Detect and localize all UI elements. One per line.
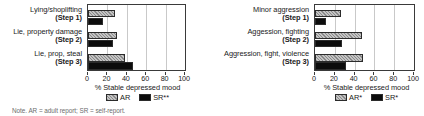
bar-sr xyxy=(315,18,326,26)
legend-label-sr: SR** xyxy=(153,93,169,102)
bar-sr xyxy=(315,40,342,48)
gridline xyxy=(127,5,128,70)
category-step: (Step 3) xyxy=(34,58,82,66)
category-label: Lie, prop, steal (Step 3) xyxy=(34,50,82,66)
bar-ar xyxy=(315,10,341,18)
category-step: (Step 2) xyxy=(247,36,309,44)
category-label: Aggession, fighting (Step 2) xyxy=(247,28,309,44)
bar-ar xyxy=(88,54,125,62)
bar-sr xyxy=(315,62,346,70)
plot-area xyxy=(87,4,186,71)
figure-note: Note. AR = adult report; SR = self-repor… xyxy=(12,107,125,116)
x-axis-title: % Stable depressed mood xyxy=(60,83,215,92)
bar-ar xyxy=(88,10,115,18)
category-step: (Step 2) xyxy=(13,36,82,44)
category-step: (Step 1) xyxy=(30,14,82,22)
category-label: Lie, property damage (Step 2) xyxy=(13,28,82,44)
gridline xyxy=(146,5,147,70)
legend: AR* SR* xyxy=(289,93,424,102)
gridline xyxy=(166,5,167,70)
plot-area xyxy=(314,4,415,71)
bar-sr xyxy=(88,18,103,26)
bar-ar xyxy=(315,32,362,40)
category-step: (Step 3) xyxy=(224,58,309,66)
legend-swatch-ar-icon xyxy=(106,94,118,101)
tick-label: 80 xyxy=(389,74,397,83)
tick-label: 0 xyxy=(312,74,316,83)
bar-ar xyxy=(315,54,363,62)
category-label: Lying/shoplifting (Step 1) xyxy=(30,6,82,22)
tick-label: 20 xyxy=(330,74,338,83)
gridline xyxy=(374,5,375,70)
category-label: Minor aggression (Step 1) xyxy=(253,6,309,22)
tick-label: 0 xyxy=(85,74,89,83)
bar-sr xyxy=(88,40,113,48)
legend: AR SR** xyxy=(60,93,215,102)
x-axis: 020406080100 xyxy=(87,72,186,82)
legend-item-ar: AR xyxy=(106,93,130,102)
tick-label: 100 xyxy=(407,74,419,83)
tick-label: 40 xyxy=(122,74,130,83)
chart-panel-left: Lying/shoplifting (Step 1) Lie, property… xyxy=(0,0,205,105)
tick-label: 100 xyxy=(178,74,190,83)
x-axis: 020406080100 xyxy=(314,72,415,82)
legend-item-sr: SR** xyxy=(139,93,169,102)
bar-sr xyxy=(88,62,133,70)
category-label-column: Lying/shoplifting (Step 1) Lie, property… xyxy=(0,4,84,72)
legend-label-ar: AR xyxy=(120,93,130,102)
gridline xyxy=(394,5,395,70)
legend-item-ar: AR* xyxy=(335,93,362,102)
category-label: Aggression, fight, violence (Step 3) xyxy=(224,50,309,66)
legend-swatch-sr-icon xyxy=(371,94,383,101)
legend-swatch-sr-icon xyxy=(139,94,151,101)
legend-swatch-ar-icon xyxy=(335,94,347,101)
category-step: (Step 1) xyxy=(253,14,309,22)
tick-label: 60 xyxy=(141,74,149,83)
tick-label: 80 xyxy=(161,74,169,83)
chart-panel-right: Minor aggression (Step 1) Aggession, fig… xyxy=(207,0,417,105)
legend-label-ar: AR* xyxy=(349,93,362,102)
category-label-column: Minor aggression (Step 1) Aggession, fig… xyxy=(207,4,311,72)
x-axis-title: % Stable depressed mood xyxy=(289,83,424,92)
tick-label: 60 xyxy=(370,74,378,83)
bar-ar xyxy=(88,32,117,40)
tick-label: 40 xyxy=(350,74,358,83)
tick-label: 20 xyxy=(103,74,111,83)
legend-label-sr: SR* xyxy=(385,93,398,102)
legend-item-sr: SR* xyxy=(371,93,398,102)
